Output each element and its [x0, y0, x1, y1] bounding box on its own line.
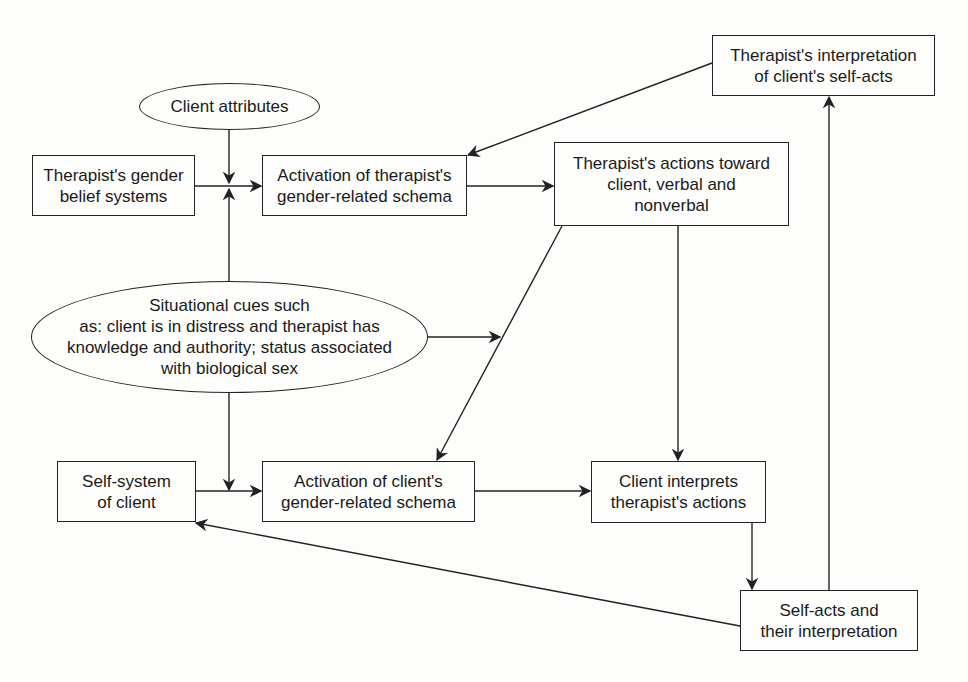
- node-label: Therapist's interpretation of client's s…: [730, 45, 917, 87]
- node-label: Activation of client's gender-related sc…: [281, 471, 456, 513]
- diagram-canvas: Client attributes Therapist's gender bel…: [0, 0, 968, 682]
- node-activation-therapist-schema: Activation of therapist's gender-related…: [262, 155, 467, 216]
- node-client-attributes: Client attributes: [139, 83, 320, 130]
- node-self-acts: Self-acts and their interpretation: [740, 590, 918, 651]
- node-label: Situational cues such as: client is in d…: [67, 295, 392, 379]
- edge-actions-client-schema: [437, 226, 562, 460]
- edge-selfacts-selfsystem: [196, 523, 740, 626]
- node-label: Client interprets therapist's actions: [611, 471, 747, 513]
- node-label: Self-system of client: [82, 471, 171, 513]
- node-therapist-interpretation: Therapist's interpretation of client's s…: [712, 35, 935, 96]
- node-situational-cues: Situational cues such as: client is in d…: [31, 281, 428, 393]
- node-therapist-actions: Therapist's actions toward client, verba…: [554, 142, 789, 226]
- node-activation-client-schema: Activation of client's gender-related sc…: [262, 461, 475, 522]
- node-therapist-gender-beliefs: Therapist's gender belief systems: [32, 155, 195, 216]
- node-label: Self-acts and their interpretation: [760, 600, 897, 642]
- node-client-interprets: Client interprets therapist's actions: [591, 461, 766, 523]
- node-label: Therapist's gender belief systems: [43, 165, 183, 207]
- node-self-system: Self-system of client: [57, 461, 196, 522]
- node-label: Therapist's actions toward client, verba…: [573, 153, 770, 216]
- node-label: Activation of therapist's gender-related…: [277, 165, 452, 207]
- node-label: Client attributes: [170, 96, 288, 117]
